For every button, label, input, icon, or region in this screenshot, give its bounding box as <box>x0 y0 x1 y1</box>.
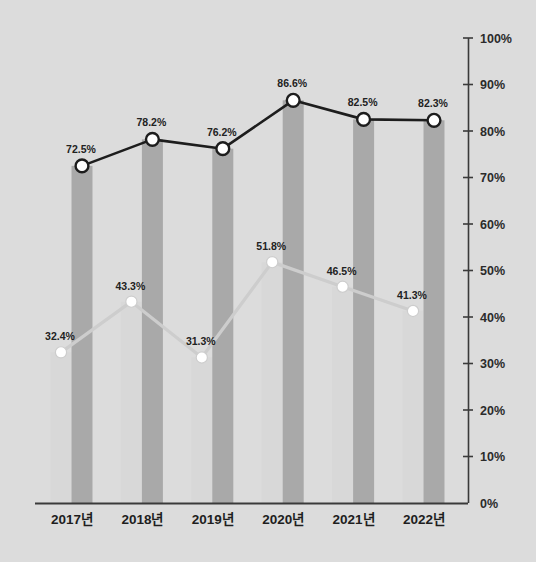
y-axis-tick-label: 40% <box>480 311 505 325</box>
dark-series-bar <box>142 139 163 503</box>
dark-series-marker <box>357 113 370 126</box>
x-axis-category-label: 2021년 <box>333 512 375 527</box>
dark-series-data-label: 76.2% <box>207 126 237 138</box>
dark-series-bar <box>283 100 304 503</box>
x-axis-category-label: 2022년 <box>403 512 445 527</box>
dark-series-marker <box>76 159 89 172</box>
light-series-data-label: 51.8% <box>256 240 286 252</box>
y-axis-tick-label: 90% <box>480 78 505 92</box>
dark-series-marker <box>287 94 300 107</box>
light-series-data-label: 43.3% <box>116 280 146 292</box>
x-axis-category-label: 2019년 <box>192 512 234 527</box>
y-axis-tick-label: 0% <box>480 497 498 511</box>
y-axis-tick-label: 60% <box>480 218 505 232</box>
dark-series-markers <box>76 94 441 172</box>
y-axis-tick-label: 20% <box>480 404 505 418</box>
x-axis-category-label: 2020년 <box>262 512 304 527</box>
x-axis-category-label: 2018년 <box>121 512 163 527</box>
dark-series-bar <box>212 149 233 503</box>
y-axis-tick-label: 100% <box>480 32 512 46</box>
light-series-data-label: 32.4% <box>45 330 75 342</box>
dark-series-data-label: 78.2% <box>137 116 167 128</box>
light-series-bar <box>262 262 283 503</box>
dark-series-marker <box>428 114 441 127</box>
y-axis-tick-label: 50% <box>480 264 505 278</box>
y-axis-tick-label: 70% <box>480 171 505 185</box>
light-series-data-label: 46.5% <box>327 265 357 277</box>
x-axis-category-label: 2017년 <box>51 512 93 527</box>
y-axis-tick-label: 30% <box>480 357 505 371</box>
x-axis-category-labels: 2017년2018년2019년2020년2021년2022년 <box>51 512 445 527</box>
y-axis-tick-labels: 0%10%20%30%40%50%60%70%80%90%100% <box>463 32 512 511</box>
dark-series-marker <box>146 133 159 146</box>
dark-series-polyline <box>82 100 434 166</box>
dark-series-data-label: 86.6% <box>277 77 307 89</box>
light-series-data-label: 41.3% <box>397 289 427 301</box>
dark-series-bar <box>353 119 374 503</box>
dark-series-data-label: 82.5% <box>348 96 378 108</box>
light-series-bar <box>191 357 212 503</box>
light-series-data-label: 31.3% <box>186 335 216 347</box>
dark-series-data-label: 72.5% <box>66 143 96 155</box>
light-series-marker <box>55 347 66 358</box>
dark-series-data-label: 82.3% <box>418 97 448 109</box>
light-series-bar <box>51 352 72 503</box>
light-series-bar <box>332 287 353 503</box>
dark-series-bar <box>424 120 445 503</box>
light-series-marker <box>407 305 418 316</box>
y-axis-tick-label: 80% <box>480 125 505 139</box>
light-series-marker <box>196 352 207 363</box>
light-series-marker <box>267 257 278 268</box>
light-series-marker <box>126 296 137 307</box>
light-series-marker <box>337 281 348 292</box>
light-series-bar <box>121 302 142 503</box>
chart-container: 0%10%20%30%40%50%60%70%80%90%100% 32.4%4… <box>0 0 536 562</box>
light-series-bar <box>403 311 424 503</box>
y-axis-tick-label: 10% <box>480 450 505 464</box>
dark-series-line <box>82 100 434 166</box>
dark-series-data-labels: 72.5%78.2%76.2%86.6%82.5%82.3% <box>66 77 448 155</box>
dark-series-marker <box>216 142 229 155</box>
dual-line-bar-chart: 0%10%20%30%40%50%60%70%80%90%100% 32.4%4… <box>0 0 536 562</box>
